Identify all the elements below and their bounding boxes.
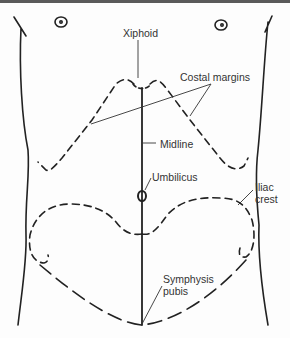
iliac-crest-outline: [30, 204, 142, 263]
costal-margin-right: [150, 81, 248, 169]
label-iliac-crest-line2: crest: [255, 193, 278, 205]
costal-margin-left: [38, 80, 134, 171]
body-outline-right: [256, 16, 272, 325]
costal-leader-left: [91, 84, 211, 124]
diagram-drawing: [0, 0, 290, 338]
body-outline-left: [14, 17, 28, 325]
label-midline: Midline: [160, 138, 193, 150]
label-iliac-crest-line1: Iliac: [255, 181, 274, 193]
label-costal-margins: Costal margins: [180, 71, 250, 83]
label-umbilicus: Umbilicus: [152, 171, 198, 183]
inguinal-curve: [40, 260, 246, 325]
costal-leader-right: [190, 84, 211, 116]
umbilicus-leader: [145, 178, 151, 190]
nipple-left-icon: [55, 17, 67, 27]
label-xiphoid: Xiphoid: [123, 27, 158, 39]
iliac-crest-leader: [238, 190, 253, 205]
nipple-right-icon: [215, 20, 227, 30]
xiphoid-arc: [133, 84, 151, 89]
abdominal-landmarks-diagram: Xiphoid Costal margins Midline Umbilicus…: [0, 0, 290, 338]
label-symphysis-line2: pubis: [163, 285, 188, 297]
label-symphysis-line1: Symphysis: [163, 273, 214, 285]
iliac-crest-outline-right: [142, 198, 254, 257]
symphysis-leader: [142, 286, 162, 324]
